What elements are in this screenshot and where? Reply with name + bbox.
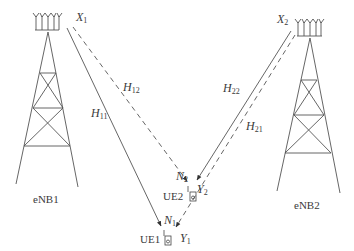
rx-label-y2: Y2 bbox=[197, 183, 208, 197]
noise-label-n2: N2 bbox=[176, 170, 188, 184]
ue2-label: UE2 bbox=[163, 191, 183, 202]
rx-label-y1: Y1 bbox=[180, 232, 191, 246]
interference-channel-diagram bbox=[0, 0, 354, 251]
antenna-array-icon-enb1 bbox=[33, 13, 62, 30]
channel-label-h21: H21 bbox=[246, 120, 263, 134]
ue1-label: UE1 bbox=[140, 234, 160, 245]
enb1-label: eNB1 bbox=[33, 194, 59, 205]
channel-label-h22: H22 bbox=[223, 82, 240, 96]
phone-icon-ue1 bbox=[164, 230, 171, 245]
noise-label-n1: N1 bbox=[164, 214, 176, 228]
enb2-label: eNB2 bbox=[294, 200, 320, 211]
channel-h22-line bbox=[197, 31, 291, 180]
antenna-array-icon-enb2 bbox=[295, 19, 324, 36]
tower-icon-enb1 bbox=[16, 13, 78, 187]
channel-label-h11: H11 bbox=[91, 107, 107, 121]
channel-h11-line bbox=[67, 28, 161, 226]
tx-label-x2: X2 bbox=[277, 13, 288, 27]
phone-icon-ue2 bbox=[188, 186, 196, 201]
channel-h12-line bbox=[73, 27, 187, 181]
channel-label-h12: H12 bbox=[123, 81, 140, 95]
tower-icon-enb2 bbox=[277, 19, 340, 193]
tx-label-x1: X1 bbox=[76, 11, 87, 25]
